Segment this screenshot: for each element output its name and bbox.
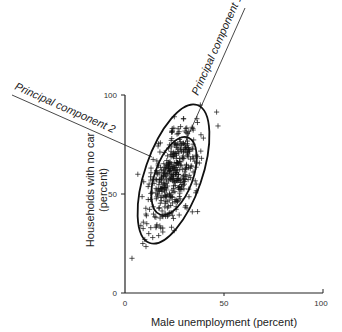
data-point: [158, 201, 163, 206]
data-point: [183, 126, 188, 131]
data-point: [146, 231, 151, 236]
pc1-line: [184, 8, 245, 145]
data-point: [165, 153, 170, 158]
data-point: [159, 208, 164, 213]
data-point: [135, 172, 140, 177]
data-point: [198, 132, 203, 137]
data-point: [162, 204, 167, 209]
pc1-label: Principal component 1: [189, 0, 244, 97]
x-tick-0: 0: [123, 299, 128, 308]
data-point: [215, 123, 220, 128]
scatter-chart: Principal component 1 Principal componen…: [0, 0, 342, 332]
x-axis-title: Male unemployment (percent): [151, 316, 297, 328]
x-axis: 0 50 100: [123, 289, 328, 308]
data-point: [171, 216, 176, 221]
y-axis-title-line2: (percent): [97, 168, 109, 212]
data-point: [150, 235, 155, 240]
data-point: [148, 225, 153, 230]
data-point: [156, 233, 161, 238]
data-point: [146, 184, 151, 189]
data-point: [143, 244, 148, 249]
data-point: [148, 174, 153, 179]
data-point: [198, 149, 203, 154]
data-point: [159, 198, 164, 203]
data-point: [157, 149, 162, 154]
data-point: [147, 207, 152, 212]
y-tick-50: 50: [108, 190, 117, 199]
data-point: [140, 194, 145, 199]
data-point: [129, 256, 134, 261]
data-point: [194, 182, 199, 187]
y-tick-0: 0: [113, 289, 118, 298]
data-point: [177, 212, 182, 217]
data-point: [152, 214, 157, 219]
x-tick-50: 50: [220, 299, 229, 308]
data-point: [148, 165, 153, 170]
pc2-label: Principal component 2: [13, 80, 117, 135]
data-point: [155, 143, 160, 148]
data-point: [190, 125, 195, 130]
data-point: [159, 189, 164, 194]
data-point: [181, 156, 186, 161]
data-point: [141, 226, 146, 231]
data-point: [195, 209, 200, 214]
data-point: [148, 170, 153, 175]
data-point: [169, 225, 174, 230]
data-point: [154, 222, 159, 227]
data-point: [195, 120, 200, 125]
data-point: [214, 109, 219, 114]
data-point: [157, 205, 162, 210]
data-point: [153, 215, 158, 220]
y-tick-100: 100: [104, 91, 118, 100]
data-point: [181, 116, 186, 121]
data-point: [187, 173, 192, 178]
pc2-line: [12, 95, 152, 157]
data-point: [151, 157, 156, 162]
data-point: [201, 136, 206, 141]
data-point: [154, 186, 159, 191]
x-tick-100: 100: [314, 299, 328, 308]
data-point: [177, 194, 182, 199]
y-axis-title-line1: Households with no car: [84, 132, 96, 247]
data-point: [190, 209, 195, 214]
data-point: [143, 206, 148, 211]
